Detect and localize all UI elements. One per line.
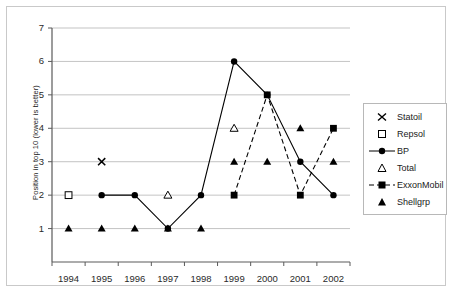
series-layer bbox=[65, 58, 338, 232]
legend-item: Shellgrp bbox=[364, 193, 446, 210]
filled-triangle-icon bbox=[367, 194, 397, 210]
y-axis-label-wrap: Position in top 10 (lower is better) bbox=[10, 20, 30, 250]
gridlines bbox=[52, 28, 350, 229]
x-tick-label: 2002 bbox=[313, 273, 353, 284]
legend-label: BP bbox=[397, 146, 409, 156]
legend-label: Shellgrp bbox=[397, 197, 430, 207]
legend-label: Total bbox=[397, 163, 416, 173]
y-tick-label: 5 bbox=[30, 89, 44, 100]
legend-item: Statoil bbox=[364, 108, 446, 125]
legend-label: Repsol bbox=[397, 129, 425, 139]
legend-label: Statoil bbox=[397, 112, 422, 122]
open-square-icon bbox=[367, 126, 397, 142]
legend-item: BP bbox=[364, 142, 446, 159]
filled-square-dashed-line-icon bbox=[367, 177, 397, 193]
series-total bbox=[164, 124, 238, 198]
y-tick-label: 7 bbox=[30, 22, 44, 33]
y-tick-label: 3 bbox=[30, 156, 44, 167]
legend-item: Total bbox=[364, 159, 446, 176]
y-tick-label: 2 bbox=[30, 189, 44, 200]
y-tick-label: 6 bbox=[30, 55, 44, 66]
filled-circle-line-icon bbox=[367, 143, 397, 159]
legend-item: Repsol bbox=[364, 125, 446, 142]
series-repsol bbox=[65, 192, 72, 199]
chart-legend: Statoil Repsol BP Total bbox=[363, 103, 447, 215]
legend-label: ExxonMobil bbox=[397, 180, 444, 190]
series-shellgrp bbox=[65, 124, 338, 231]
y-tick-label: 4 bbox=[30, 122, 44, 133]
series-bp bbox=[98, 58, 336, 232]
y-tick-label: 1 bbox=[30, 223, 44, 234]
open-triangle-icon bbox=[367, 160, 397, 176]
legend-item: ExxonMobil bbox=[364, 176, 446, 193]
cross-x-icon bbox=[367, 109, 397, 125]
